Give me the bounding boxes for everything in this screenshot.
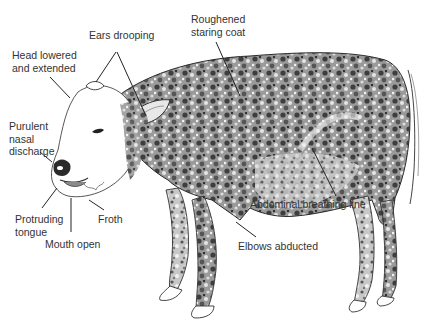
label-purulent-nasal-discharge: Purulent nasal discharge (9, 120, 55, 158)
calf-body (51, 53, 418, 318)
label-roughened-staring-coat: Roughened staring coat (191, 13, 245, 38)
leader-line-froth (89, 200, 104, 210)
label-ears-drooping: Ears drooping (89, 29, 154, 42)
calf-diagram: Ears drooping Roughened staring coat Hea… (0, 0, 430, 323)
leader-line-ears-left (96, 52, 116, 82)
label-mouth-open: Mouth open (45, 238, 100, 251)
label-abdominal-breathing-line: Abdominal breathing line (250, 198, 366, 211)
label-froth: Froth (98, 213, 123, 226)
label-head-lowered-extended: Head lowered and extended (12, 49, 77, 74)
leader-line-elbows (236, 222, 256, 237)
leader-line-head (50, 77, 70, 98)
label-elbows-abducted: Elbows abducted (238, 240, 318, 253)
label-protruding-tongue: Protruding tongue (15, 213, 63, 238)
leader-line-tongue (42, 188, 57, 208)
